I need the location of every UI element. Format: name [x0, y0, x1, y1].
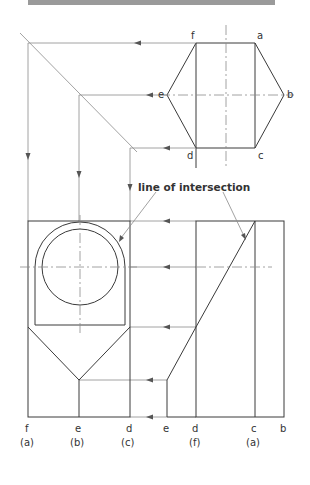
label-fv-a: (a): [20, 437, 34, 448]
label-hex-f: f: [191, 30, 195, 41]
plan-view-hexagon: [160, 25, 294, 168]
label-hex-b: b: [287, 89, 293, 100]
label-sv-d: d: [192, 423, 198, 434]
label-hex-a: a: [257, 30, 263, 41]
label-fv-c: (c): [121, 437, 134, 448]
front-view: [20, 215, 137, 417]
label-sv-e: e: [163, 423, 169, 434]
annotation-leaders: [119, 192, 246, 242]
label-hex-e: e: [158, 89, 164, 100]
annotation-line-of-intersection: line of intersection: [138, 181, 250, 193]
label-fv-b: (b): [70, 437, 84, 448]
label-hex-d: d: [187, 150, 193, 161]
side-view: [167, 221, 284, 417]
label-fv-f: f: [25, 423, 29, 434]
label-sv-c: c: [251, 423, 257, 434]
label-fv-e: e: [75, 423, 81, 434]
projection-diagram: line of intersection f a e b d c f (a) e…: [0, 0, 310, 485]
label-sv-b: b: [280, 423, 286, 434]
label-sv-f: (f): [189, 437, 200, 448]
label-fv-d: d: [126, 423, 132, 434]
label-hex-c: c: [258, 150, 264, 161]
label-sv-a: (a): [246, 437, 260, 448]
